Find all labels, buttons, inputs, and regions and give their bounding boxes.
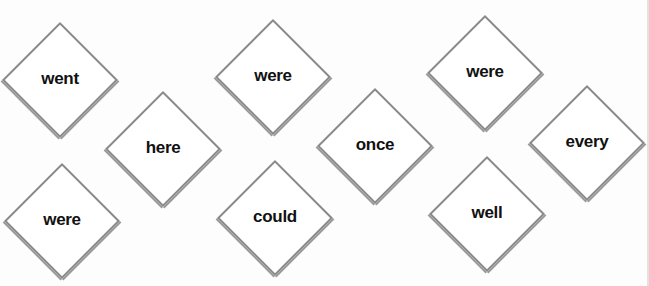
word-label: well [427,203,547,223]
word-label: went [0,69,120,89]
word-label: were [213,66,333,86]
word-label: could [215,207,335,227]
word-label: were [2,210,122,230]
word-label: here [103,138,223,158]
word-label: once [315,135,435,155]
word-label: were [425,62,545,82]
word-label: every [527,132,647,152]
